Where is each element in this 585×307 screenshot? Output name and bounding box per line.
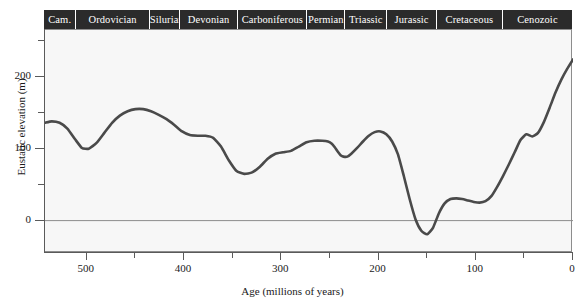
x-axis-line — [44, 252, 573, 253]
x-minor-tick — [426, 253, 427, 258]
y-tick-label: 0 — [0, 214, 31, 225]
period-cell-cam: Cam. — [44, 10, 76, 29]
x-axis-title: Age (millions of years) — [0, 285, 585, 297]
geologic-period-band: Cam.OrdovicianSilurianDevonianCarbonifer… — [44, 10, 572, 29]
x-major-tick — [572, 253, 573, 260]
y-minor-tick — [38, 112, 44, 113]
period-cell-silurian: Silurian — [150, 10, 180, 29]
x-major-tick — [378, 253, 379, 260]
x-major-tick — [183, 253, 184, 260]
x-tick-label: 400 — [163, 262, 203, 274]
plot-area — [44, 29, 572, 252]
period-cell-cenozoic: Cenozoic — [503, 10, 572, 29]
y-minor-tick — [38, 184, 44, 185]
period-cell-carboniferous: Carboniferous — [238, 10, 307, 29]
x-tick-label: 300 — [260, 262, 300, 274]
period-cell-cretaceous: Cretaceous — [437, 10, 503, 29]
curve-svg — [45, 30, 573, 253]
sea-level-chart-figure: Cam.OrdovicianSilurianDevonianCarbonifer… — [0, 0, 585, 307]
x-major-tick — [280, 253, 281, 260]
x-tick-label: 0 — [552, 262, 585, 274]
x-tick-label: 200 — [358, 262, 398, 274]
eustatic-sea-level-curve — [45, 59, 573, 234]
y-major-tick — [35, 76, 44, 77]
period-cell-devonian: Devonian — [180, 10, 238, 29]
x-major-tick — [86, 253, 87, 260]
y-major-tick — [35, 148, 44, 149]
x-minor-tick — [523, 253, 524, 258]
period-cell-triassic: Triassic — [345, 10, 387, 29]
x-major-tick — [475, 253, 476, 260]
x-minor-tick — [232, 253, 233, 258]
y-minor-tick — [38, 40, 44, 41]
period-cell-permian: Permian — [307, 10, 345, 29]
x-tick-label: 500 — [66, 262, 106, 274]
y-major-tick — [35, 220, 44, 221]
period-cell-jurassic: Jurassic — [387, 10, 437, 29]
x-tick-label: 100 — [455, 262, 495, 274]
x-minor-tick — [134, 253, 135, 258]
y-axis-title: Eustatic elevation (m) — [15, 62, 27, 192]
period-cell-ordovician: Ordovician — [76, 10, 149, 29]
y-axis-line — [44, 29, 45, 252]
x-minor-tick — [329, 253, 330, 258]
